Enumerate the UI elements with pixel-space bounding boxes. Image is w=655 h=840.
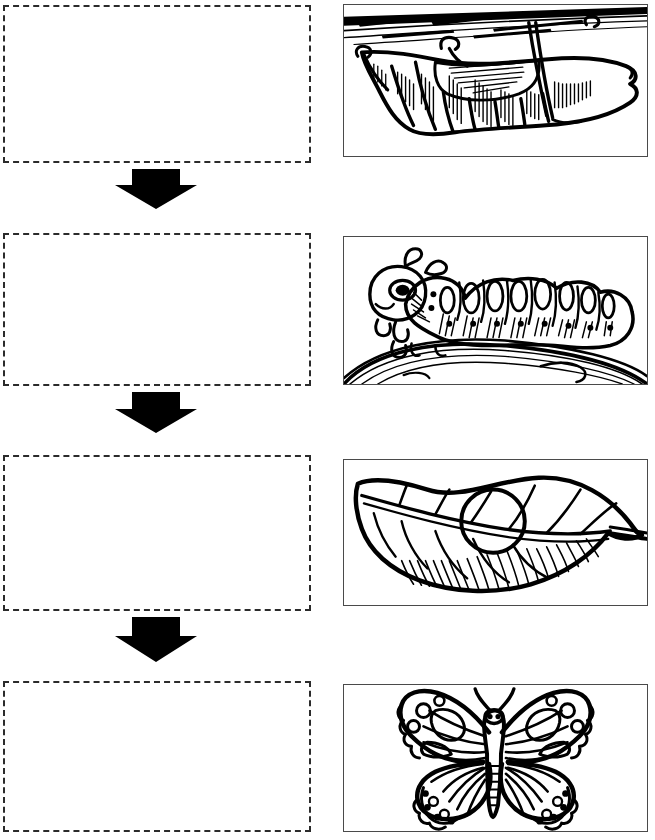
answer-box-3[interactable] xyxy=(3,455,311,611)
egg-on-leaf-drawing xyxy=(344,460,647,605)
arrow-down-icon xyxy=(115,617,197,662)
arrow-down-icon xyxy=(115,169,197,209)
flow-arrow-3 xyxy=(115,617,197,662)
answer-box-4[interactable] xyxy=(3,681,311,832)
figure-butterfly xyxy=(343,684,648,832)
worksheet-page xyxy=(0,0,655,840)
figure-chrysalis xyxy=(343,4,648,157)
answer-box-1[interactable] xyxy=(3,5,311,163)
butterfly-drawing xyxy=(344,685,647,831)
chrysalis-drawing xyxy=(344,5,647,156)
figure-caterpillar xyxy=(343,236,648,385)
answer-box-2[interactable] xyxy=(3,233,311,386)
arrow-down-icon xyxy=(115,392,197,433)
caterpillar-drawing xyxy=(344,237,647,384)
figure-egg-on-leaf xyxy=(343,459,648,606)
flow-arrow-1 xyxy=(115,169,197,209)
flow-arrow-2 xyxy=(115,392,197,433)
